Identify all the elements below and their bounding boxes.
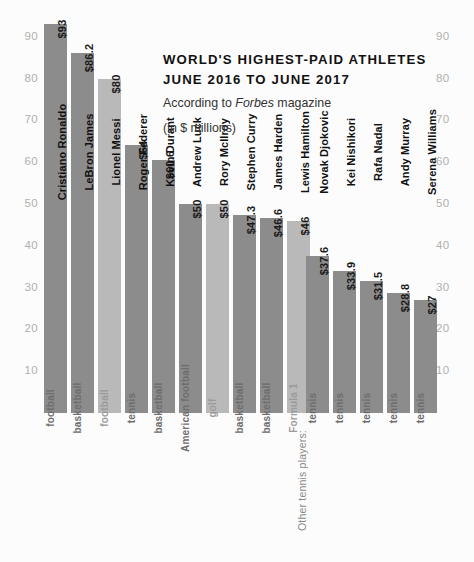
chart-title-line-2: JUNE 2016 TO JUNE 2017: [163, 70, 413, 90]
bar-value-label: $31.5: [372, 272, 384, 301]
bar-value-label: $50: [218, 200, 230, 219]
bar-value-label: $46.6: [272, 209, 284, 238]
bar-sport-label: basketball: [261, 383, 272, 434]
bar-category-label: Lionel Messi: [110, 118, 122, 185]
bar-sport-label: tennis: [126, 393, 137, 424]
bar[interactable]: $86.2basketball: [71, 53, 94, 413]
bar-category-label: Roger Federer: [137, 114, 149, 191]
bar-sport-label: tennis: [307, 393, 318, 424]
bar[interactable]: $28.8tennis: [387, 293, 410, 413]
bar[interactable]: $60.6basketball: [152, 160, 175, 413]
chart-container: 102030405060708090 102030405060708090 $9…: [0, 0, 474, 562]
bar-sport-label: tennis: [334, 393, 345, 424]
bar-slot: $80footballLionel Messi: [98, 0, 121, 562]
bar-value-label: $93: [56, 20, 68, 39]
bar-value-label: $86.2: [83, 43, 95, 72]
bar-value-label: $50: [191, 200, 203, 219]
bar[interactable]: $31.5tennis: [360, 281, 383, 413]
chart-headline: WORLD'S HIGHEST-PAID ATHLETES JUNE 2016 …: [163, 50, 413, 140]
bar-sport-label: Formula 1: [288, 383, 299, 433]
bar[interactable]: $47.3basketball: [233, 215, 256, 413]
bar-slot: $64tennisRoger Federer: [125, 0, 148, 562]
chart-title-line-1: WORLD'S HIGHEST-PAID ATHLETES: [163, 50, 413, 70]
bar-category-label: Cristiano Ronaldo: [56, 104, 68, 200]
subtitle-suffix: magazine: [274, 96, 331, 110]
chart-units-note: (in $ millions): [163, 118, 413, 140]
bar-sport-label: basketball: [153, 383, 164, 434]
bar[interactable]: $46.6basketball: [260, 218, 283, 413]
bar-value-label: $33.9: [345, 262, 357, 291]
bar-category-label: LeBron James: [83, 113, 95, 190]
bar-sport-label: football: [45, 389, 56, 427]
subtitle-prefix: According to: [163, 96, 235, 110]
bar-sport-label: tennis: [415, 393, 426, 424]
bar[interactable]: $50golf: [206, 204, 229, 413]
bar-value-label: $37.6: [318, 247, 330, 276]
bar-slot: $86.2basketballLeBron James: [71, 0, 94, 562]
bar-value-label: $27: [426, 296, 438, 315]
bar-sport-label: American football: [180, 364, 191, 452]
bar-slot: $93footballCristiano Ronaldo: [44, 0, 67, 562]
chart-subtitle: According to Forbes magazine: [163, 93, 413, 115]
subtitle-source: Forbes: [235, 96, 274, 110]
tennis-group-caption: Other tennis players:: [296, 430, 308, 531]
bar[interactable]: $33.9tennis: [333, 271, 356, 413]
bar-sport-label: basketball: [72, 383, 83, 434]
bar-slot: $27tennisSerena Williams: [414, 0, 437, 562]
bar[interactable]: $93football: [44, 24, 67, 413]
bar-sport-label: football: [99, 389, 110, 427]
bar[interactable]: $37.6tennis: [306, 256, 329, 413]
bar-sport-label: golf: [207, 398, 218, 417]
bar[interactable]: $27tennis: [414, 300, 437, 413]
bar-value-label: $47.3: [245, 206, 257, 235]
bar-value-label: $80: [110, 74, 122, 93]
bar-value-label: $28.8: [399, 283, 411, 312]
bar-sport-label: tennis: [361, 393, 372, 424]
bar-category-label: Serena Williams: [426, 109, 438, 195]
bar[interactable]: $50American football: [179, 204, 202, 413]
bar-sport-label: tennis: [388, 393, 399, 424]
bar-sport-label: basketball: [234, 383, 245, 434]
